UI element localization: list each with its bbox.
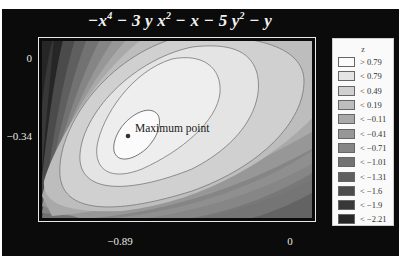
legend-swatch [338, 157, 355, 167]
title-part: − 3 y x [112, 11, 165, 30]
legend-swatch [338, 186, 355, 196]
legend-label: < −1.6 [360, 186, 382, 196]
legend-swatch [338, 143, 355, 153]
legend-label: < 0.19 [360, 100, 382, 110]
legend-label: < −1.31 [360, 172, 387, 182]
title-part: − x − 5 y [171, 11, 239, 30]
contour-plot: Maximum point [42, 41, 312, 218]
y-tick-neg034: −0.34 [2, 130, 32, 142]
title-part: − y [245, 11, 272, 30]
legend-swatch [338, 114, 355, 124]
legend-label: < 0.79 [360, 71, 382, 81]
legend-swatch [338, 100, 355, 110]
legend-entry: < −0.41 [333, 126, 393, 140]
legend-swatch [338, 200, 355, 210]
legend-swatch [338, 172, 355, 182]
legend-label: < −1.01 [360, 157, 387, 167]
legend-label: < −1.9 [360, 200, 382, 210]
legend-swatch [338, 57, 355, 67]
y-tick-0: 0 [2, 52, 32, 64]
legend-entry: < 0.19 [333, 98, 393, 112]
x-tick-0: 0 [265, 235, 315, 247]
legend-swatch [338, 71, 355, 81]
maximum-point-marker [126, 134, 131, 139]
legend-entry: < −0.11 [333, 112, 393, 126]
legend-label: < −0.11 [360, 114, 386, 124]
legend-swatch [338, 214, 355, 224]
legend-entry: < 0.49 [333, 84, 393, 98]
legend-entry: > 0.79 [333, 55, 393, 69]
legend-swatch [338, 86, 355, 96]
legend-entry: < −1.6 [333, 184, 393, 198]
legend-entry: < 0.79 [333, 69, 393, 83]
legend: z > 0.79< 0.79< 0.49< 0.19< −0.11< −0.41… [332, 38, 394, 226]
legend-label: < 0.49 [360, 86, 382, 96]
title-part: −x [88, 11, 107, 30]
legend-entry: < −2.21 [333, 212, 393, 226]
plot-area: Maximum point [38, 37, 316, 222]
legend-entry: < −1.9 [333, 198, 393, 212]
annotation-maximum-point: Maximum point [135, 122, 210, 135]
x-tick-neg089: −0.89 [95, 235, 145, 247]
legend-entry: < −1.01 [333, 155, 393, 169]
legend-label: < −2.21 [360, 214, 387, 224]
legend-title: z [333, 45, 393, 55]
legend-label: < −0.71 [360, 143, 387, 153]
legend-label: < −0.41 [360, 129, 387, 139]
legend-swatch [338, 129, 355, 139]
legend-label: > 0.79 [360, 57, 382, 67]
legend-entry: < −1.31 [333, 169, 393, 183]
legend-entry: < −0.71 [333, 141, 393, 155]
chart-title: −x4 − 3 y x2 − x − 5 y2 − y [40, 10, 320, 31]
